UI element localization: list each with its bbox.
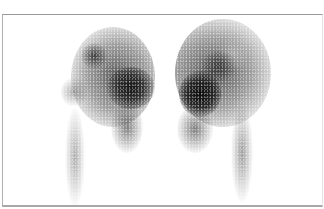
- scan-frame: [2, 14, 323, 207]
- scan-noise-overlay: [3, 15, 322, 205]
